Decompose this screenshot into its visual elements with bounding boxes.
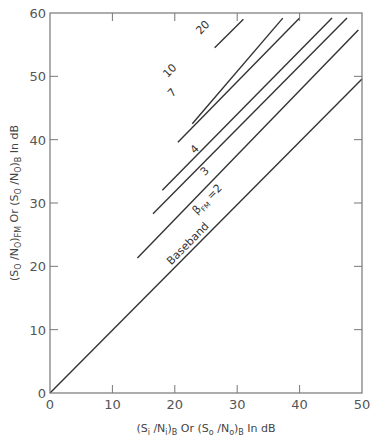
label-beta-3: 3 <box>198 164 212 178</box>
x-tick-label: 20 <box>167 397 184 412</box>
y-tick-label: 40 <box>29 133 46 148</box>
y-tick-label: 30 <box>29 196 46 211</box>
y-tick-label: 10 <box>29 323 46 338</box>
series-line <box>178 18 300 142</box>
x-tick-label: 30 <box>229 397 246 412</box>
series-line <box>192 18 282 124</box>
y-axis-label: (SO /NO)FM Or (SO /NO)B In dB <box>8 125 23 281</box>
label-beta-fm-2: βFM =2 <box>190 182 227 219</box>
chart-canvas: 010203040500102030405060 Baseband3471020… <box>0 0 376 443</box>
series-line <box>50 79 362 393</box>
label-beta-20: 20 <box>193 18 212 37</box>
x-tick-label: 0 <box>46 397 54 412</box>
label-baseband: Baseband <box>164 220 211 268</box>
x-axis-label: (Si /Ni)B Or (So /No)B In dB <box>136 422 275 437</box>
x-tick-label: 40 <box>291 397 308 412</box>
label-beta-4: 4 <box>188 142 202 156</box>
y-tick-label: 50 <box>29 69 46 84</box>
x-tick-label: 50 <box>354 397 371 412</box>
label-beta-7: 7 <box>165 86 179 100</box>
series-line <box>153 18 347 214</box>
curve-labels: Baseband3471020βFM =2 <box>160 18 226 267</box>
y-tick-label: 20 <box>29 259 46 274</box>
y-tick-label: 60 <box>29 6 46 21</box>
series-line <box>162 18 332 190</box>
y-tick-label: 0 <box>38 386 46 401</box>
label-beta-10: 10 <box>160 61 179 80</box>
series-line <box>215 19 244 48</box>
x-tick-label: 10 <box>104 397 121 412</box>
